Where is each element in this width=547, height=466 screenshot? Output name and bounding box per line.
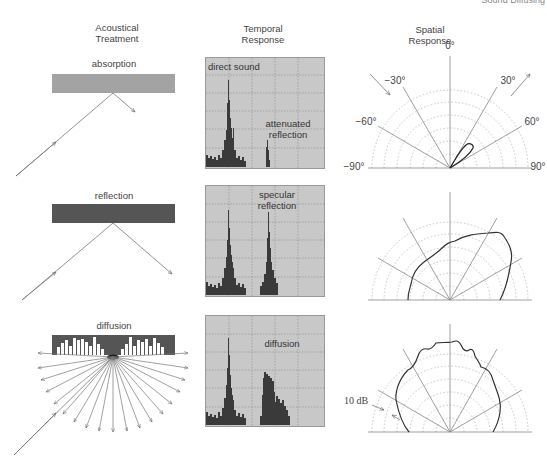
polar-label-30: 30° [496, 75, 520, 86]
scale-label-10db: 10 dB [340, 395, 372, 406]
spatial-responses [0, 0, 547, 466]
polar-label-minus30: −30° [381, 75, 409, 86]
polar-label-0: 0° [440, 40, 460, 51]
polar-plot-absorption [368, 56, 532, 168]
polar-label-90: 90° [528, 161, 547, 172]
polar-label-minus60: −60° [352, 116, 380, 127]
polar-plot-diffusion [368, 324, 532, 432]
polar-plot-reflection [368, 192, 532, 300]
polar-label-minus90: −90° [340, 161, 368, 172]
polar-label-60: 60° [520, 116, 544, 127]
